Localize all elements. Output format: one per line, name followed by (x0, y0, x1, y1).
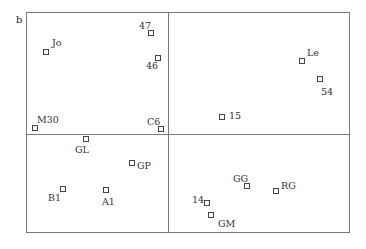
point-label: C6 (147, 117, 160, 127)
point-marker-icon (273, 188, 279, 194)
point-marker-icon (43, 49, 49, 55)
point-label: GL (75, 145, 89, 155)
point-marker-icon (83, 136, 89, 142)
point-marker-icon (299, 58, 305, 64)
point-label: 15 (229, 111, 241, 121)
point-label: 46 (146, 61, 158, 71)
point-label: RG (281, 181, 296, 191)
point-marker-icon (129, 160, 135, 166)
point-label: Jo (52, 38, 62, 48)
point-label: 14 (192, 195, 204, 205)
horizontal-divider (26, 134, 350, 135)
point-label: M30 (37, 115, 59, 125)
point-label: GP (137, 161, 151, 171)
panel-label: b (16, 14, 22, 25)
point-marker-icon (219, 114, 225, 120)
point-label: Le (307, 48, 319, 58)
point-marker-icon (32, 125, 38, 131)
point-label: GG (233, 174, 248, 184)
point-label: A1 (102, 197, 115, 207)
point-label: GM (218, 219, 235, 229)
plot-frame (26, 12, 350, 233)
point-marker-icon (208, 212, 214, 218)
point-label: 47 (139, 21, 151, 31)
point-marker-icon (103, 187, 109, 193)
point-marker-icon (317, 76, 323, 82)
vertical-divider (168, 12, 169, 233)
point-marker-icon (204, 200, 210, 206)
point-label: 54 (321, 87, 333, 97)
point-label: B1 (48, 193, 61, 203)
scatter-diagram: b Jo4746M30C6Le5415GLGPB1A1GGRG14GM (0, 0, 366, 249)
